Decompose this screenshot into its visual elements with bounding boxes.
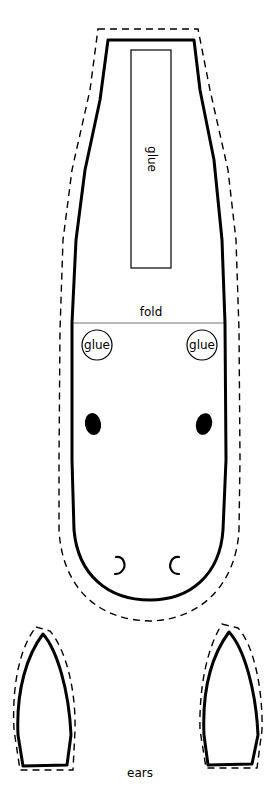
glue-strip-label: glue — [145, 146, 159, 172]
nostril-right — [170, 557, 179, 574]
glue-spot-right: glue — [187, 330, 217, 360]
glue-spot-right-label: glue — [189, 338, 215, 352]
ear-right-outline — [204, 632, 258, 765]
ear-right — [200, 624, 262, 768]
ears-label: ears — [127, 766, 153, 780]
glue-spot-left-label: glue — [84, 338, 110, 352]
cutout-template: glue fold glue glue ears — [0, 0, 279, 812]
nostril-left — [115, 557, 124, 574]
body-cut-line — [59, 29, 240, 621]
eye-left — [83, 412, 103, 436]
fold-label: fold — [140, 305, 163, 319]
body-outline — [72, 40, 226, 600]
eye-right — [193, 411, 214, 436]
body-piece: glue fold glue glue — [59, 29, 240, 621]
glue-spot-left: glue — [82, 330, 112, 360]
ear-left — [14, 627, 75, 770]
